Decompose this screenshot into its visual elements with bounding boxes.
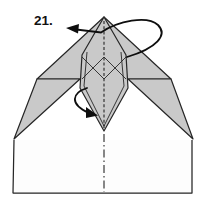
origami-step-diagram: 21. [0, 0, 204, 205]
diagram-canvas: 21. [0, 0, 204, 205]
paper-base [13, 140, 192, 193]
step-number-label: 21. [34, 13, 53, 28]
